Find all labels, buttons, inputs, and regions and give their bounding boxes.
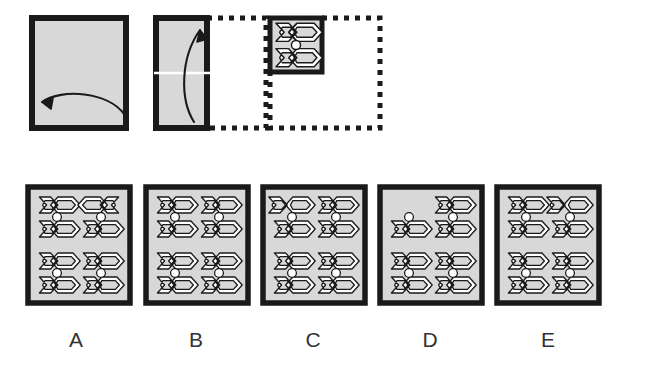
fold-step-3 [266, 14, 384, 132]
center-circle [405, 213, 414, 222]
center-circle [97, 269, 106, 278]
center-circle [332, 213, 341, 222]
center-circle [53, 213, 62, 222]
center-circle [449, 213, 458, 222]
paper-sheet-full [32, 18, 126, 128]
option-d[interactable] [377, 184, 485, 306]
fold-step-2 [152, 14, 270, 132]
center-circle [405, 269, 414, 278]
center-circle [449, 269, 458, 278]
center-circle [215, 269, 224, 278]
center-circle [522, 213, 531, 222]
center-circle [566, 269, 575, 278]
option-c[interactable] [260, 184, 368, 306]
center-circle [288, 213, 297, 222]
center-circle [288, 269, 297, 278]
center-circle [215, 213, 224, 222]
center-circle [291, 40, 300, 49]
puzzle-canvas: A B C D E [0, 0, 650, 377]
center-circle [97, 213, 106, 222]
option-e[interactable] [494, 184, 602, 306]
option-a[interactable] [25, 184, 133, 306]
center-circle [171, 213, 180, 222]
fold-step-1 [28, 14, 130, 132]
center-circle [53, 269, 62, 278]
option-label-c: C [283, 328, 343, 352]
ghost-outline-step-2 [207, 18, 266, 128]
center-circle [171, 269, 180, 278]
center-circle [566, 213, 575, 222]
option-label-d: D [400, 328, 460, 352]
center-circle [332, 269, 341, 278]
option-label-b: B [166, 328, 226, 352]
center-circle [522, 269, 531, 278]
option-label-e: E [518, 328, 578, 352]
option-label-a: A [46, 328, 106, 352]
option-b[interactable] [143, 184, 251, 306]
